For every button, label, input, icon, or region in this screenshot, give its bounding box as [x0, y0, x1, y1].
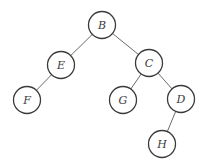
edge-c-d — [158, 73, 172, 89]
edges-group — [36, 34, 175, 132]
node-label: F — [22, 94, 31, 107]
node-label: C — [145, 57, 154, 70]
node-label: D — [176, 93, 186, 106]
edge-e-f — [36, 75, 51, 91]
edge-d-h — [167, 111, 175, 131]
tree-node-e: E — [48, 52, 75, 79]
nodes-group: BECFGDH — [14, 12, 195, 158]
tree-svg: BECFGDH — [0, 0, 209, 168]
tree-node-g: G — [110, 87, 137, 114]
node-label: E — [56, 59, 65, 72]
node-label: H — [156, 138, 167, 151]
node-label: B — [97, 19, 106, 32]
tree-node-h: H — [149, 131, 176, 158]
edge-c-g — [131, 74, 141, 89]
tree-diagram: BECFGDH — [0, 0, 209, 168]
edge-b-c — [113, 34, 139, 55]
tree-node-b: B — [89, 12, 116, 39]
tree-node-c: C — [136, 50, 163, 77]
node-label: G — [119, 94, 128, 107]
tree-node-d: D — [168, 86, 195, 113]
tree-node-f: F — [14, 87, 41, 114]
edge-b-e — [71, 34, 93, 55]
